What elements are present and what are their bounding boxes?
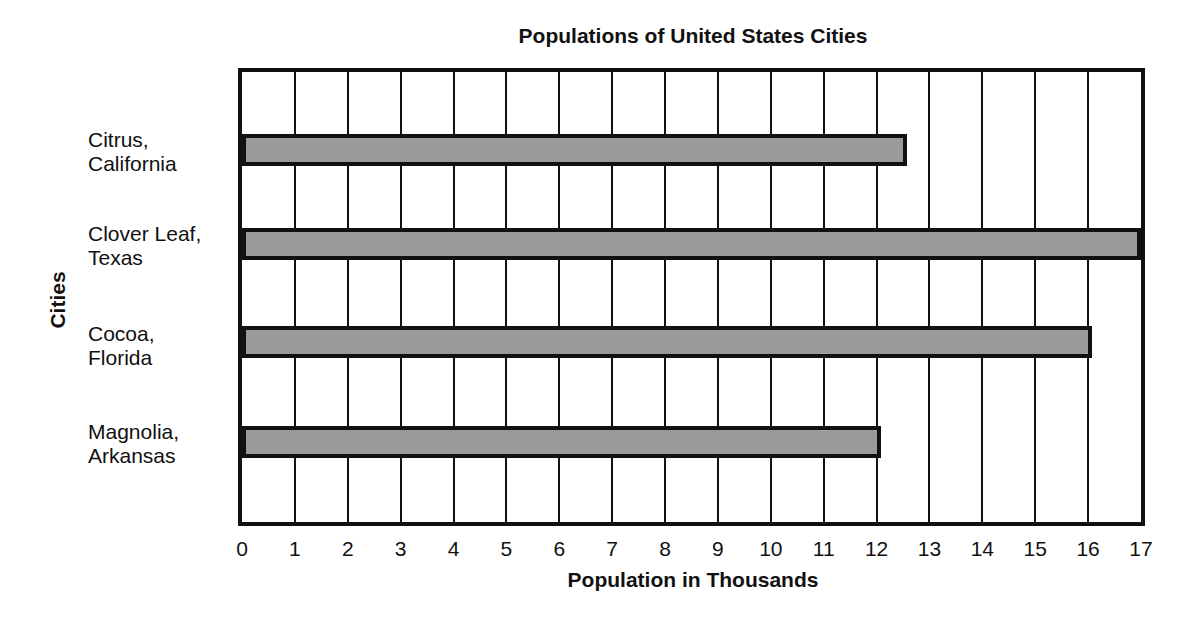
x-tick-label: 5 bbox=[501, 537, 513, 561]
grid-line bbox=[1087, 72, 1089, 522]
grid-line bbox=[1034, 72, 1036, 522]
x-tick-label: 11 bbox=[813, 537, 835, 561]
y-axis-label: Cities bbox=[46, 270, 70, 330]
x-tick-label: 16 bbox=[1076, 537, 1099, 561]
plot-area bbox=[238, 68, 1145, 526]
category-label-line: Texas bbox=[88, 246, 201, 270]
x-tick-label: 12 bbox=[865, 537, 888, 561]
category-label-line: Arkansas bbox=[88, 444, 179, 468]
x-tick-label: 8 bbox=[659, 537, 671, 561]
category-label-line: Clover Leaf, bbox=[88, 222, 201, 246]
category-label-2: Cocoa, Florida bbox=[88, 322, 155, 370]
x-tick-label: 14 bbox=[971, 537, 994, 561]
bar-2 bbox=[242, 326, 1092, 358]
x-tick-label: 4 bbox=[448, 537, 460, 561]
x-axis-label: Population in Thousands bbox=[238, 568, 1148, 592]
category-label-1: Clover Leaf, Texas bbox=[88, 222, 201, 270]
x-tick-label: 9 bbox=[712, 537, 724, 561]
x-tick-label: 2 bbox=[342, 537, 354, 561]
x-tick-label: 7 bbox=[606, 537, 618, 561]
x-tick-label: 15 bbox=[1024, 537, 1047, 561]
x-tick-label: 3 bbox=[395, 537, 407, 561]
grid-line bbox=[928, 72, 930, 522]
category-label-line: Cocoa, bbox=[88, 322, 155, 346]
category-label-0: Citrus, California bbox=[88, 128, 177, 176]
x-tick-label: 1 bbox=[289, 537, 301, 561]
category-label-line: Florida bbox=[88, 346, 155, 370]
category-label-line: Citrus, bbox=[88, 128, 177, 152]
x-tick-label: 0 bbox=[236, 537, 248, 561]
chart-title: Populations of United States Cities bbox=[238, 24, 1148, 48]
x-tick-label: 10 bbox=[759, 537, 782, 561]
category-label-3: Magnolia, Arkansas bbox=[88, 420, 179, 468]
grid-line bbox=[981, 72, 983, 522]
bar-1 bbox=[242, 228, 1141, 260]
x-tick-label: 13 bbox=[918, 537, 941, 561]
x-tick-label: 17 bbox=[1129, 537, 1152, 561]
category-label-line: California bbox=[88, 152, 177, 176]
bar-3 bbox=[242, 426, 881, 458]
bar-0 bbox=[242, 134, 907, 166]
x-tick-label: 6 bbox=[553, 537, 565, 561]
category-label-line: Magnolia, bbox=[88, 420, 179, 444]
